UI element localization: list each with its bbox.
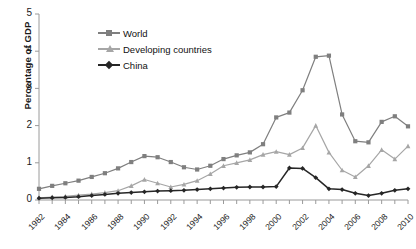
legend-item-world[interactable]: World	[98, 26, 212, 40]
y-axis-tick-label: 1	[16, 156, 32, 167]
chart-legend: World Developing countries China	[98, 26, 212, 74]
y-axis-tick-label: 0	[16, 193, 32, 204]
y-axis-tick-label: 4	[16, 44, 32, 55]
series-china	[37, 166, 411, 201]
y-axis-tick-label: 2	[16, 119, 32, 130]
legend-label-china: China	[123, 60, 148, 71]
legend-swatch-world	[98, 28, 120, 38]
y-axis-tick-label: 5	[16, 7, 32, 18]
legend-swatch-china	[98, 60, 120, 70]
legend-item-china[interactable]: China	[98, 58, 212, 72]
legend-item-developing-countries[interactable]: Developing countries	[98, 42, 212, 56]
legend-label-developing-countries: Developing countries	[123, 44, 212, 55]
legend-swatch-developing-countries	[98, 44, 120, 54]
y-axis-tick-label: 3	[16, 81, 32, 92]
legend-label-world: World	[123, 28, 148, 39]
series-world	[37, 54, 410, 191]
